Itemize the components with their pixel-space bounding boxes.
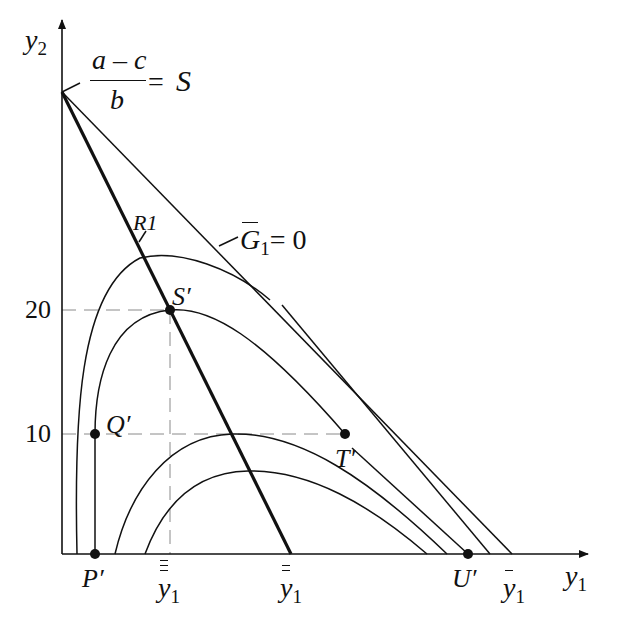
equals-sign: = [148, 68, 164, 96]
gain-zero-label: G1= 0 [240, 226, 307, 258]
fraction-bar [90, 80, 146, 81]
reaction-line-label: R1 [133, 212, 157, 234]
x-axis-label: y1 [565, 562, 587, 594]
y-axis-label: y2 [25, 26, 47, 58]
x-marker-triple-bar: y1 [158, 574, 180, 606]
gain-zero-line [62, 92, 512, 554]
label-u-prime: U′ [452, 566, 476, 592]
fraction-numerator: a – c [92, 46, 146, 74]
guide-lines [62, 310, 345, 554]
label-t-prime: T′ [335, 446, 355, 472]
iso-curves [62, 83, 490, 554]
intercept-label: a – c b = S [88, 46, 228, 116]
points [90, 305, 473, 559]
point-q-prime [90, 429, 100, 439]
reaction-line-r1 [62, 92, 291, 554]
y-tick-10: 10 [25, 421, 51, 447]
label-p-prime: P′ [82, 566, 104, 592]
x-marker-double-bar: y1 [280, 574, 302, 606]
label-q-prime: Q′ [106, 412, 130, 438]
point-p-prime [90, 549, 100, 559]
point-u-prime [463, 549, 473, 559]
point-t-prime [340, 429, 350, 439]
x-marker-single-bar: y1 [503, 574, 525, 606]
fraction-denominator: b [110, 86, 124, 114]
label-s-prime: S′ [172, 284, 191, 310]
y-tick-20: 20 [25, 297, 51, 323]
intercept-name: S [176, 66, 191, 96]
